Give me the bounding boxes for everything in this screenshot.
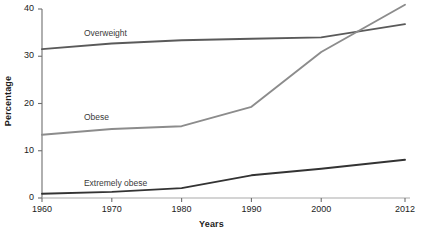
y-tick-marks (38, 9, 42, 198)
x-tick-label: 2000 (301, 204, 341, 214)
y-tick-label: 0 (8, 192, 34, 202)
y-tick-label: 10 (8, 145, 34, 155)
series-label-overweight: Overweight (84, 28, 127, 38)
x-tick-label: 1980 (162, 204, 202, 214)
series-label-extremely-obese: Extremely obese (84, 178, 147, 188)
series-label-obese: Obese (84, 112, 109, 122)
x-tick-label: 1960 (22, 204, 62, 214)
y-tick-label: 30 (8, 50, 34, 60)
x-tick-label: 1970 (92, 204, 132, 214)
y-tick-label: 40 (8, 3, 34, 13)
x-tick-label: 2012 (385, 204, 423, 214)
x-axis-title: Years (0, 219, 423, 229)
line-chart-plot (0, 0, 423, 241)
chart-container: Percentage Years 010203040 1960197019801… (0, 0, 423, 241)
x-tick-marks (42, 198, 405, 202)
y-tick-label: 20 (8, 98, 34, 108)
x-tick-label: 1990 (231, 204, 271, 214)
series-line-extremely-obese (42, 160, 405, 194)
